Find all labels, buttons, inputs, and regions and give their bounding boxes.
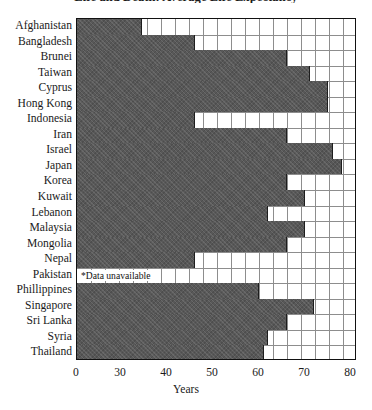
- y-axis-label: Cyprus: [39, 80, 73, 96]
- gridline-vertical: [315, 19, 316, 359]
- gridline-horizontal: [77, 268, 355, 269]
- bar: [77, 19, 142, 35]
- x-axis-tick: 40: [160, 366, 172, 379]
- bar: [77, 190, 305, 206]
- bar: [77, 66, 310, 82]
- y-axis-label: Iran: [53, 127, 72, 143]
- y-axis-label: Hong Kong: [18, 96, 72, 112]
- bar: [77, 299, 314, 315]
- bar: [77, 345, 264, 360]
- bar: [77, 50, 287, 66]
- x-axis-tick: 80: [344, 366, 356, 379]
- bar: [77, 128, 287, 144]
- y-axis-label: Kuwait: [38, 189, 72, 205]
- y-axis-label: Brunei: [40, 49, 72, 65]
- bar: [77, 97, 328, 113]
- y-axis-label: Singapore: [25, 298, 72, 314]
- y-axis-label: Thailand: [31, 344, 72, 360]
- gridline-vertical: [329, 19, 330, 359]
- y-axis-category-labels: AfghanistanBangladeshBruneiTaiwanCyprusH…: [0, 18, 74, 360]
- x-axis-tick-labels: 0304050607080: [0, 366, 372, 382]
- y-axis-label: Syria: [48, 329, 72, 345]
- bar: [77, 237, 287, 253]
- bar: [77, 159, 342, 175]
- y-axis-label: Lebanon: [31, 205, 72, 221]
- x-axis-tick: 0: [73, 366, 79, 379]
- x-axis-tick: 60: [252, 366, 264, 379]
- bar: [77, 143, 333, 159]
- y-axis-label: Japan: [46, 158, 72, 174]
- x-axis-tick: 70: [298, 366, 310, 379]
- bar: [77, 81, 328, 97]
- plot-area: *Data unavailable: [76, 18, 356, 360]
- bar: [77, 35, 195, 51]
- y-axis-label: Taiwan: [38, 65, 72, 81]
- bar: [77, 112, 195, 128]
- y-axis-label: Afghanistan: [15, 18, 72, 34]
- x-axis-tick: 30: [114, 366, 126, 379]
- y-axis-label: Indonesia: [27, 111, 72, 127]
- y-axis-label: Mongolia: [27, 236, 72, 252]
- chart-title: Life and Death: Average Life Expectancy: [0, 0, 372, 3]
- y-axis-label: Nepal: [44, 251, 72, 267]
- y-axis-label: Malaysia: [30, 220, 73, 236]
- bar: [77, 314, 287, 330]
- y-axis-label: Israel: [46, 142, 72, 158]
- x-axis-title: Years: [0, 383, 372, 396]
- bar: [77, 221, 305, 237]
- bar: [77, 206, 268, 222]
- bar: [77, 330, 268, 346]
- y-axis-label: Bangladesh: [18, 34, 72, 50]
- y-axis-label: Phillippines: [17, 282, 72, 298]
- life-expectancy-bar-chart: Life and Death: Average Life Expectancy …: [0, 0, 372, 410]
- data-unavailable-note: *Data unavailable: [80, 270, 152, 281]
- gridline-vertical: [343, 19, 344, 359]
- x-axis-tick: 50: [206, 366, 218, 379]
- y-axis-label: Korea: [44, 173, 72, 189]
- y-axis-label: Pakistan: [33, 267, 72, 283]
- bar: [77, 174, 287, 190]
- y-axis-label: Sri Lanka: [27, 313, 72, 329]
- bar: [77, 252, 195, 268]
- bar: [77, 283, 259, 299]
